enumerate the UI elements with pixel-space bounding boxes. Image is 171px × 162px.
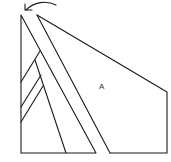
- region-a-label: A: [99, 82, 105, 91]
- left-triangle: [21, 15, 96, 153]
- inner-line: [35, 60, 66, 153]
- rotation-arrow-icon: [25, 2, 56, 10]
- geometry-diagram: A: [0, 0, 171, 162]
- hatch-lines: [21, 51, 43, 122]
